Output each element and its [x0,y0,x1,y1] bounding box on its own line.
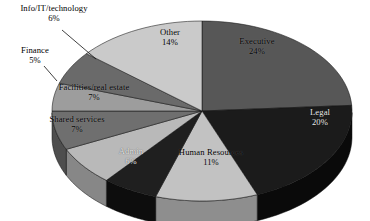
slice-label-finance: Finance 5% [0,46,70,65]
slice-label-hr: Human Resources 11% [159,148,263,167]
slice-label-admin-percent: 6% [105,157,157,167]
slice-label-executive: Executive 24% [219,37,295,56]
pie-slice-executive[interactable] [202,21,352,111]
slice-label-shared-percent: 7% [29,125,125,135]
slice-label-legal-percent: 20% [292,118,348,128]
slice-label-finance-percent: 5% [0,56,70,66]
slice-label-facilities: Facilities/real estate 7% [39,83,149,102]
pie-chart-figure: Info/IT/technology 6% Finance 5% Other 1… [0,0,370,221]
leader-line-finance [44,66,57,81]
slice-label-infoit-percent: 6% [0,14,110,24]
slice-label-other: Other 14% [135,28,205,47]
slice-label-facilities-percent: 7% [39,93,149,103]
slice-label-legal: Legal 20% [292,108,348,127]
slice-label-admin: Admin 6% [105,147,157,166]
slice-label-infoit: Info/IT/technology 6% [0,4,110,23]
slice-label-hr-percent: 11% [159,158,263,168]
slice-label-shared: Shared services 7% [29,115,125,134]
slice-label-other-percent: 14% [135,38,205,48]
slice-label-executive-percent: 24% [219,47,295,57]
